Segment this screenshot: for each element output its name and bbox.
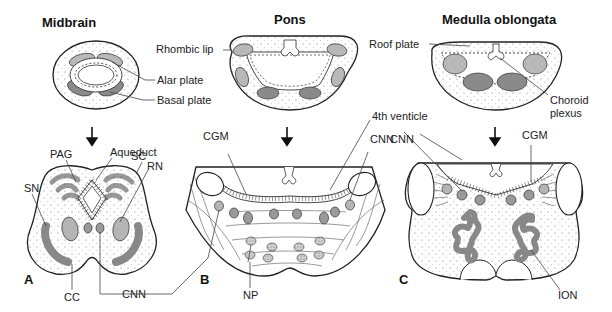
label-basal-plate: Basal plate [157, 94, 211, 106]
title-pons: Pons [274, 12, 306, 27]
panel-letter-a: A [24, 272, 34, 287]
label-np: NP [243, 289, 258, 301]
label-roof-plate: Roof plate [369, 38, 419, 50]
label-alar-plate: Alar plate [157, 74, 203, 86]
label-cnn-shared: CNN [122, 288, 146, 300]
label-4th-ventricle: 4th venticle [372, 110, 428, 122]
label-rn: RN [147, 160, 163, 172]
title-medulla: Medulla oblongata [442, 12, 557, 27]
label-sn: SN [24, 182, 39, 194]
panel-letter-c: C [399, 272, 409, 287]
midbrain-embryonic-section [53, 41, 139, 109]
panel-c-medulla-section [405, 163, 582, 280]
label-cc: CC [64, 291, 80, 303]
panel-a-midbrain-section [28, 166, 157, 275]
panel-b-pons-section [186, 167, 385, 276]
panel-letter-b: B [200, 272, 209, 287]
label-plexus: plexus [550, 107, 582, 119]
label-choroid: Choroid [550, 94, 589, 106]
label-pag: PAG [50, 148, 72, 160]
medulla-embryonic-section [432, 42, 562, 110]
label-cnn-medulla: CNN [390, 133, 414, 145]
label-sc: SC [131, 150, 146, 162]
label-cgm-medulla: CGM [522, 129, 548, 141]
label-rhombic-lip: Rhombic lip [156, 43, 213, 55]
label-cgm-pons: CGM [203, 130, 229, 142]
pons-embryonic-section [230, 36, 358, 110]
brainstem-development-diagram: Midbrain Pons Medulla oblongata [0, 0, 612, 312]
label-ion: ION [558, 289, 578, 301]
title-midbrain: Midbrain [42, 15, 96, 30]
